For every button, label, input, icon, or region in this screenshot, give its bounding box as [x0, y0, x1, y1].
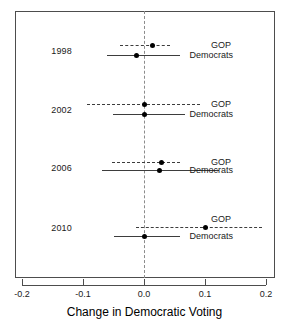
x-tick-pos02 [266, 279, 267, 285]
gop-point-1998 [150, 43, 155, 48]
democrats-point-2006 [157, 168, 162, 173]
democrats-point-2002 [142, 112, 147, 117]
x-axis-title: Change in Democratic Voting [0, 305, 289, 320]
x-tick-label-neg01: -0.1 [63, 289, 103, 300]
category-label-2002: 2002 [30, 105, 72, 115]
gop-series-label-2002: GOP [165, 99, 231, 109]
gop-series-label-1998: GOP [165, 40, 231, 50]
x-axis-line [22, 285, 266, 286]
gop-point-2002 [142, 102, 147, 107]
gop-series-label-2010: GOP [165, 214, 231, 224]
democrats-series-label-1998: Democrats [165, 50, 233, 60]
category-label-1998: 1998 [30, 46, 72, 56]
gop-interval-1998 [120, 45, 170, 46]
democrats-series-label-2010: Democrats [165, 231, 233, 241]
x-tick-label-neg02: -0.2 [2, 289, 42, 300]
chart-row-2006: 2006 GOP Democrats [0, 155, 289, 185]
democrats-series-label-2002: Democrats [165, 109, 233, 119]
x-tick-label-pos02: 0.2 [246, 289, 286, 300]
dot-and-whisker-chart: 1998 GOP Democrats 2002 GOP Democrats 20… [0, 0, 289, 332]
x-tick-label-pos01: 0.1 [185, 289, 225, 300]
x-tick-neg02 [22, 279, 23, 285]
democrats-series-label-2006: Democrats [165, 165, 233, 175]
x-tick-zero [144, 279, 145, 285]
category-label-2010: 2010 [30, 223, 72, 233]
democrats-point-1998 [134, 53, 139, 58]
x-tick-pos01 [205, 279, 206, 285]
democrats-point-2010 [142, 234, 147, 239]
x-tick-label-zero: 0.0 [124, 289, 164, 300]
gop-point-2006 [159, 160, 164, 165]
x-tick-neg01 [83, 279, 84, 285]
chart-row-2010: 2010 GOP Democrats [0, 213, 289, 243]
gop-interval-2010 [136, 227, 262, 228]
category-label-2006: 2006 [30, 163, 72, 173]
gop-point-2010 [203, 225, 208, 230]
chart-row-2002: 2002 GOP Democrats [0, 97, 289, 127]
chart-row-1998: 1998 GOP Democrats [0, 38, 289, 68]
